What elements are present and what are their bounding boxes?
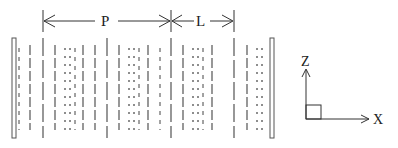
layer-label: L	[196, 13, 205, 29]
layered-structure-diagram: P L Z X	[0, 0, 398, 148]
left-plate	[12, 38, 16, 138]
period-label: P	[101, 13, 109, 29]
x-axis-label: X	[373, 112, 383, 127]
right-angle-marker	[306, 105, 321, 119]
layer-columns	[19, 38, 262, 138]
coordinate-axes	[302, 69, 369, 123]
z-axis-label: Z	[301, 54, 310, 69]
right-plate	[270, 38, 274, 138]
